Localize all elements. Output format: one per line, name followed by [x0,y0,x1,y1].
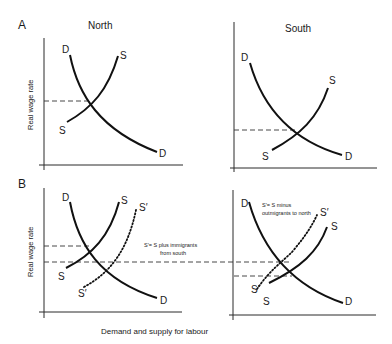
shifted-supply-note-line1: S′= S plus immigrants [144,242,197,248]
supply-label-bottom: S [262,151,269,162]
shifted-supply-label-top: S′ [320,207,329,218]
shifted-supply-curve [84,210,136,287]
demand-label-top: D [241,198,248,209]
shifted-supply-label-bottom: S′ [78,288,87,299]
supply-label-top: S [120,50,127,61]
x-axis-title: Demand and supply for labour [101,327,209,336]
shifted-supply-label-bottom: S′ [251,284,260,295]
panel-a-south: South D D S S [230,22,377,172]
demand-label-bottom: D [345,296,352,307]
region-title-south: South [285,23,311,34]
supply-label-bottom: S [263,296,270,307]
demand-label-bottom: D [160,295,167,306]
supply-label-top: S [329,75,336,86]
shifted-supply-note-line2: from south [160,250,186,256]
supply-label-bottom: S [58,271,65,282]
shifted-supply-note-line2: outmigrants to north [262,210,311,216]
panel-label-b: B [18,177,26,191]
panel-b-south: D D S S S′ S′ S′= S minus outmigrants to… [229,190,376,320]
y-axis-title: Real wage rate [26,80,35,130]
supply-label-top: S [331,221,338,232]
shifted-supply-curve [257,215,317,289]
panel-a-north: North Real wage rate D D S S [26,20,183,170]
region-title-north: North [88,20,112,31]
shifted-supply-note-line1: S′= S minus [262,202,292,208]
supply-label-bottom: S [59,125,66,136]
demand-label-bottom: D [159,148,166,159]
supply-curve [269,227,327,283]
demand-label-top: D [62,192,69,203]
demand-curve [249,202,343,303]
supply-curve [67,56,118,122]
demand-label-bottom: D [345,151,352,162]
supply-label-top: S [121,195,128,206]
panel-label-a: A [18,18,26,32]
demand-label-top: D [241,52,248,63]
labour-migration-diagram: A North Real wage rate D D S S South D D… [0,0,392,344]
supply-curve [66,202,119,268]
demand-label-top: D [62,44,69,55]
shifted-supply-label-top: S′ [139,202,148,213]
panel-b-north: Real wage rate D D S S S′ S′ S′= S plus … [26,188,292,318]
y-axis-title: Real wage rate [26,227,35,277]
